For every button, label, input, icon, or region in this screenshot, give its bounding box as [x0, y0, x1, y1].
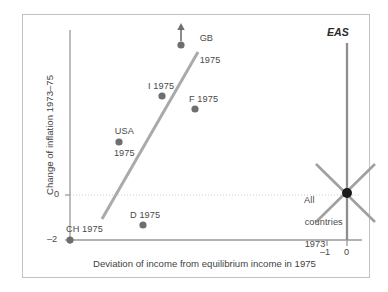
- data-point-f: [191, 105, 198, 112]
- data-point-d: [139, 221, 146, 228]
- gb-up-arrow-icon: [177, 23, 184, 41]
- x-tick-label-0: 0: [344, 247, 349, 257]
- point-label-all-line2: countries: [305, 217, 343, 227]
- point-label-gb: GB 1975: [189, 22, 220, 77]
- y-axis-title: Change of inflation 1973–75: [44, 75, 55, 195]
- eas-label: EAS: [327, 26, 349, 38]
- point-label-usa: USA 1975: [99, 115, 139, 170]
- point-label-d: D 1975: [130, 210, 160, 221]
- point-label-all-line1: All: [304, 195, 315, 205]
- point-label-gb-line1: GB: [200, 33, 213, 43]
- point-label-i: I 1975: [148, 81, 174, 92]
- y-tick-label-0: 0: [54, 189, 59, 199]
- point-label-usa-line1: USA: [115, 126, 134, 136]
- data-point-gb: [177, 41, 184, 48]
- data-point-all-countries: [342, 188, 352, 198]
- point-label-f: F 1975: [189, 94, 218, 105]
- x-axis-title: Deviation of income from equilibrium inc…: [93, 258, 316, 269]
- data-point-ch: [66, 236, 73, 243]
- point-label-gb-line2: 1975: [200, 55, 221, 65]
- point-label-all-countries: All countries 1973: [294, 184, 343, 261]
- point-label-usa-line2: 1975: [114, 148, 135, 158]
- data-point-i: [158, 92, 165, 99]
- y-tick-label-minus2: –2: [47, 234, 57, 244]
- point-label-ch: CH 1975: [66, 224, 103, 235]
- chart-figure: Change of inflation 1973–75 Deviation of…: [0, 0, 388, 292]
- point-label-all-line3: 1973: [305, 239, 326, 249]
